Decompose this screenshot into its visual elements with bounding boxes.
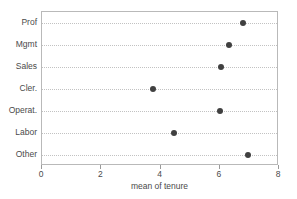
x-axis-tick-label: 2: [98, 170, 103, 179]
x-axis-tick-label: 4: [157, 170, 162, 179]
data-point: [171, 130, 177, 136]
y-axis-tick-label: Sales: [0, 62, 37, 71]
gridline: [42, 67, 277, 68]
data-point: [240, 20, 246, 26]
gridline: [42, 45, 277, 46]
data-point: [218, 64, 224, 70]
gridline: [42, 89, 277, 90]
x-axis-title: mean of tenure: [41, 182, 278, 191]
gridline: [42, 111, 277, 112]
y-axis-tick-label: Mgmt: [0, 40, 37, 49]
y-axis-tick-label: Prof: [0, 18, 37, 27]
data-point: [245, 152, 251, 158]
x-axis-tick-label: 6: [216, 170, 221, 179]
y-axis-tick-label: Other: [0, 150, 37, 159]
plot-frame: [41, 11, 278, 165]
data-point: [150, 86, 156, 92]
y-axis-tick-label: Cler.: [0, 84, 37, 93]
y-axis-tick-label: Labor: [0, 128, 37, 137]
dot-plot-chart: ProfMgmtSalesCler.Operat.LaborOther 0246…: [0, 0, 297, 199]
x-axis-tick-label: 8: [276, 170, 281, 179]
gridline: [42, 133, 277, 134]
gridline: [42, 155, 277, 156]
y-axis-tick-label: Operat.: [0, 106, 37, 115]
x-axis-tick-label: 0: [39, 170, 44, 179]
data-point: [226, 42, 232, 48]
y-axis-labels: ProfMgmtSalesCler.Operat.LaborOther: [0, 11, 37, 165]
plot-area: [42, 12, 277, 164]
data-point: [217, 108, 223, 114]
